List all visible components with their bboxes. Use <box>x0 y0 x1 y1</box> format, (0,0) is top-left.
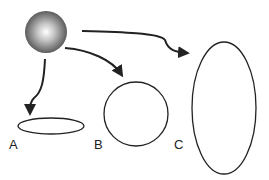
shape-b-circle <box>104 82 168 146</box>
shape-c-ellipse <box>192 42 256 174</box>
shape-a-ellipse <box>18 118 84 134</box>
arrow-to-c <box>82 31 186 53</box>
arrow-to-a <box>30 59 45 112</box>
arrow-to-b <box>65 48 121 74</box>
label-a: A <box>9 138 18 151</box>
source-sphere <box>25 11 67 53</box>
label-c: C <box>174 138 183 151</box>
diagram-canvas: A B C <box>0 0 269 180</box>
label-b: B <box>94 138 103 151</box>
diagram-svg <box>0 0 269 180</box>
